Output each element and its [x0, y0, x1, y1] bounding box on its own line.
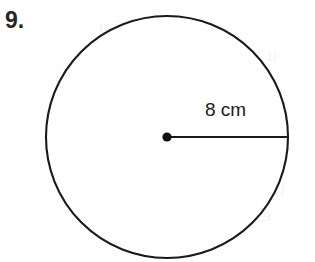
radius-measure-label: 8 cm	[205, 100, 246, 119]
worksheet-figure-page: u p c a e t i o n r e a d i a m t h e e …	[0, 0, 315, 262]
circle-radius-diagram	[0, 0, 315, 262]
circle-center-dot	[162, 132, 171, 141]
